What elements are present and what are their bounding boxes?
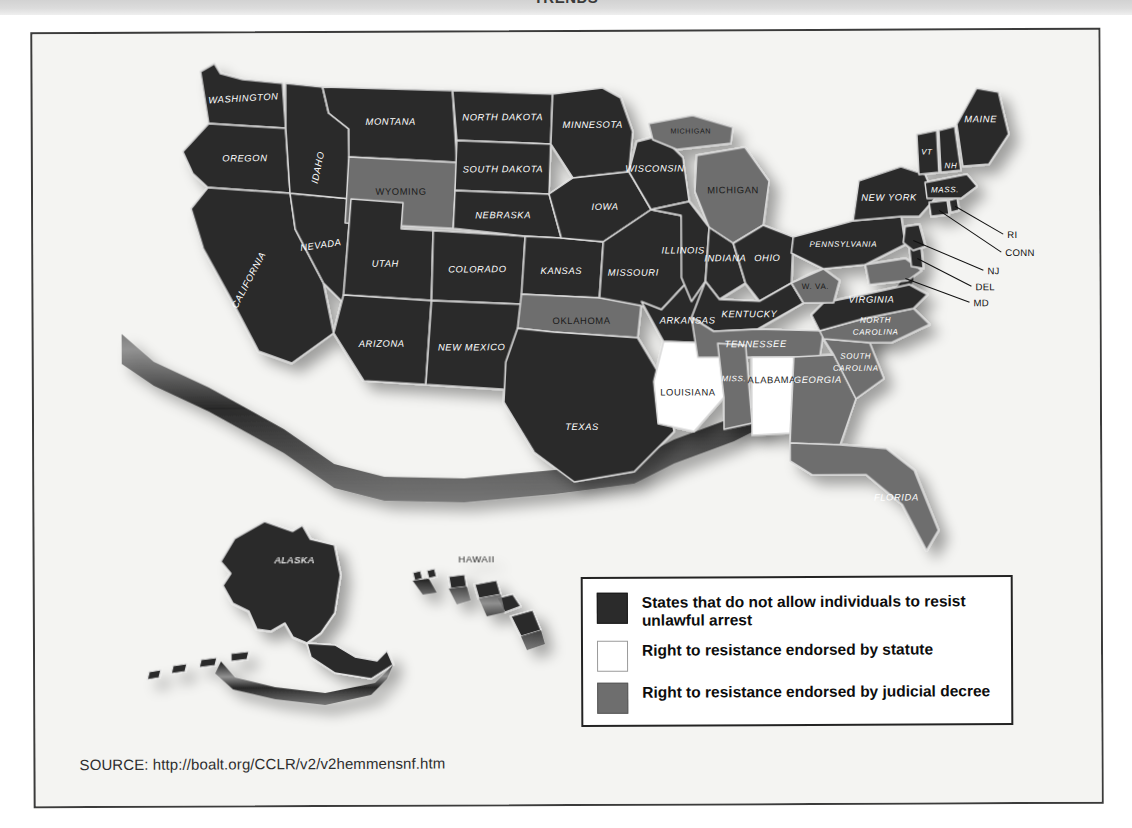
state-label-nebraska: NEBRASKA [475, 209, 531, 220]
state-label-south-carolina-1: SOUTH [840, 352, 871, 361]
page-header-band: TRENDS [0, 0, 1132, 15]
state-connecticut[interactable] [929, 200, 949, 216]
legend-row-judicial: Right to resistance endorsed by judicial… [597, 681, 999, 714]
state-label-iowa: IOWA [591, 201, 618, 212]
state-label-maine: MAINE [964, 113, 997, 124]
state-label-kentucky: KENTUCKY [722, 308, 778, 319]
state-label-indiana: INDIANA [704, 252, 746, 263]
state-label-illinois: ILLINOIS [662, 244, 706, 255]
state-label-new-mexico: NEW MEXICO [438, 341, 506, 352]
state-label-colorado: COLORADO [448, 263, 507, 274]
state-label-north-carolina-1: NORTH [860, 316, 891, 325]
legend-label-statute: Right to resistance endorsed by statute [642, 639, 933, 659]
legend-label-no-resist: States that do not allow individuals to … [642, 591, 999, 629]
state-label-oregon: OREGON [222, 152, 267, 163]
legend-swatch-dark [597, 593, 628, 624]
state-label-utah: UTAH [372, 258, 399, 269]
state-label-vermont: VT [921, 147, 933, 156]
callout-label-delaware: DEL [975, 281, 995, 292]
state-alabama[interactable] [752, 357, 794, 435]
state-label-new-hampshire: NH [945, 161, 958, 170]
state-rhode-island[interactable] [949, 198, 959, 212]
state-label-montana: MONTANA [365, 116, 415, 127]
map-legend: States that do not allow individuals to … [581, 575, 1014, 727]
state-label-florida: FLORIDA [874, 491, 919, 502]
legend-swatch-white [597, 641, 628, 672]
state-label-georgia: GEORGIA [794, 374, 842, 385]
header-cutoff-text: TRENDS [0, 0, 1132, 6]
legend-row-statute: Right to resistance endorsed by statute [597, 639, 999, 672]
legend-swatch-gray [597, 683, 628, 714]
state-label-massachusetts: MASS. [931, 185, 959, 194]
callout-label-new-jersey: NJ [987, 265, 999, 276]
state-label-virginia: VIRGINIA [848, 294, 894, 305]
state-label-south-carolina-2: CAROLINA [833, 364, 879, 373]
state-label-wyoming: WYOMING [375, 186, 426, 197]
state-label-michigan-lp: MICHIGAN [707, 184, 759, 195]
legend-label-judicial: Right to resistance endorsed by judicial… [642, 681, 990, 701]
state-label-west-virginia: W. VA. [802, 282, 830, 291]
state-label-south-dakota: SOUTH DAKOTA [463, 163, 544, 174]
state-label-wisconsin: WISCONSIN [625, 162, 685, 173]
state-label-minnesota: MINNESOTA [562, 119, 622, 130]
state-label-pennsylvania: PENNSYLVANIA [809, 240, 877, 249]
state-label-kansas: KANSAS [541, 265, 583, 276]
callout-label-rhode-island: RI [1007, 229, 1017, 240]
state-label-hawaii: HAWAII [458, 553, 494, 564]
state-label-mississippi: MISS. [721, 374, 746, 383]
state-label-oklahoma: OKLAHOMA [553, 315, 611, 326]
state-label-tennessee: TENNESSEE [725, 338, 787, 349]
state-label-arizona: ARIZONA [358, 338, 405, 349]
state-label-louisiana: LOUISIANA [660, 386, 716, 397]
state-label-new-york: NEW YORK [861, 191, 917, 202]
state-label-ohio: OHIO [754, 252, 781, 263]
map-figure-inner: WASHINGTON OREGON IDAHO CALIFORNIA NEVAD… [32, 30, 1101, 807]
state-label-alabama: ALABAMA [748, 374, 797, 385]
state-label-michigan-up: MICHIGAN [670, 126, 711, 135]
legend-row-no-resist: States that do not allow individuals to … [597, 591, 999, 630]
callout-label-maryland: MD [973, 297, 989, 308]
state-label-texas: TEXAS [565, 421, 599, 432]
state-label-alaska: ALASKA [274, 554, 315, 565]
state-label-missouri: MISSOURI [608, 267, 659, 278]
source-label: SOURCE: http://boalt.org/CCLR/v2/v2hemme… [79, 755, 445, 774]
map-figure-frame: WASHINGTON OREGON IDAHO CALIFORNIA NEVAD… [30, 28, 1103, 809]
callout-label-connecticut: CONN [1005, 247, 1035, 258]
state-label-north-carolina-2: CAROLINA [853, 328, 899, 337]
state-label-north-dakota: NORTH DAKOTA [462, 111, 543, 122]
state-label-arkansas: ARKANSAS [659, 314, 716, 325]
